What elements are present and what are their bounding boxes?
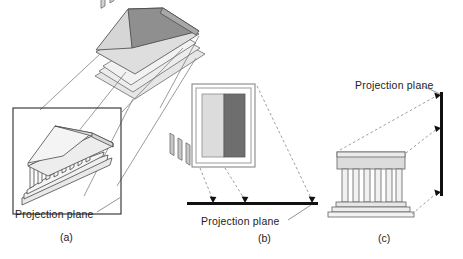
panel-c-ray-arrowheads (434, 93, 441, 196)
panel-c-sublabel: (c) (378, 232, 390, 244)
panel-c-plane-label: Projection plane (355, 79, 434, 91)
figure-canvas: Projection plane (a) Projection plane (b… (0, 0, 463, 259)
panel-a-sublabel: (a) (60, 231, 73, 243)
panel-c-source-object (328, 152, 414, 217)
panel-b-plane-label: Projection plane (201, 215, 280, 227)
panel-b-sublabel: (b) (258, 232, 271, 244)
panel-a-plane-label: Projection plane (15, 208, 94, 220)
